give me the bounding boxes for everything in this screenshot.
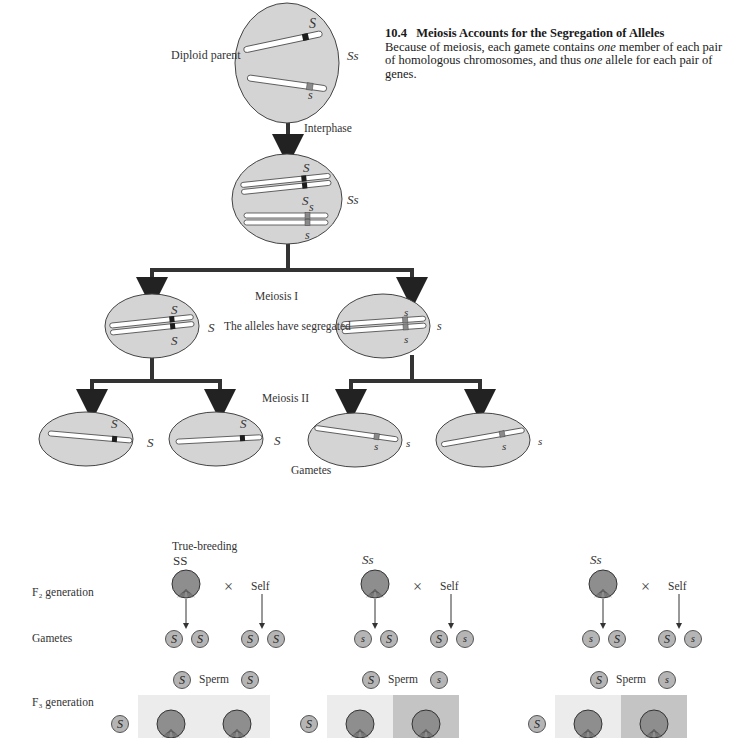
- allele-label: s: [305, 228, 310, 243]
- meiosis-diagram: [0, 0, 736, 738]
- allele-label: S: [303, 160, 310, 176]
- allele-label: s: [404, 306, 408, 318]
- gamete-circle: S: [241, 630, 259, 648]
- parent-seed: [589, 570, 617, 598]
- arrow-meiosis2-3: [351, 355, 412, 405]
- parent-genotype: Ss: [347, 48, 359, 64]
- arrow-meiosis2-2: [152, 381, 220, 405]
- true-breeding-label: True-breeding: [172, 540, 237, 552]
- arrow-meiosis1-right: [288, 270, 412, 293]
- parent-seed: [172, 570, 200, 598]
- allele-label: S: [171, 333, 178, 349]
- parent-genotype-label: SS: [173, 553, 187, 569]
- sperm-label: Sperm: [388, 673, 418, 685]
- gamete-cell-3: [308, 413, 402, 467]
- offspring-seed: [412, 710, 440, 738]
- allele-label: S: [208, 320, 215, 336]
- gamete-circle: S: [267, 630, 285, 648]
- meiosis1-left-cell: [105, 294, 199, 358]
- cross-symbol: ×: [641, 578, 650, 596]
- allele-label: S: [240, 416, 247, 432]
- interphase-genotype: Ss: [347, 192, 359, 208]
- gamete-cell-2: [169, 412, 263, 466]
- gamete-circle: S: [528, 715, 546, 733]
- allele-label: s: [406, 437, 410, 449]
- sperm-label: Sperm: [199, 673, 229, 685]
- gamete-circle: S: [430, 630, 448, 648]
- allele-label: S: [171, 302, 178, 318]
- segregated-label: The alleles have segregated: [224, 320, 351, 332]
- allele-label: s: [309, 200, 314, 215]
- gamete-circle: s: [430, 671, 448, 689]
- diploid-parent-cell: [235, 3, 339, 123]
- arrow-meiosis2-1: [92, 355, 152, 405]
- gamete-circle: s: [456, 630, 474, 648]
- allele-label: s: [374, 440, 378, 452]
- offspring-seed: [640, 710, 668, 738]
- gametes-row-label: Gametes: [32, 632, 72, 644]
- offspring-seed: [574, 710, 602, 738]
- offspring-seed: [346, 710, 374, 738]
- gamete-circle: s: [582, 630, 600, 648]
- gamete-circle: S: [300, 715, 318, 733]
- self-label: Self: [668, 580, 687, 592]
- interphase-label: Interphase: [304, 122, 352, 134]
- gamete-circle: S: [241, 671, 259, 689]
- gamete-circle: s: [658, 671, 676, 689]
- self-label: Self: [440, 580, 459, 592]
- offspring-seed: [157, 710, 185, 738]
- allele-label: s: [308, 88, 313, 103]
- gametes-label: Gametes: [291, 464, 331, 476]
- parent-genotype-label: Ss: [362, 552, 374, 568]
- gamete-circle: S: [191, 630, 209, 648]
- gamete-cell-1: [39, 412, 133, 466]
- allele-label: s: [437, 319, 442, 334]
- interphase-cell: [232, 154, 342, 244]
- allele-label: S: [274, 433, 281, 449]
- f3-generation-label: F₃ generation: [32, 696, 94, 708]
- gamete-circle: S: [590, 671, 608, 689]
- gamete-circle: S: [658, 630, 676, 648]
- diploid-parent-label: Diploid parent: [171, 48, 241, 63]
- arrow-meiosis2-4: [412, 381, 480, 405]
- gamete-cell-4: [436, 413, 530, 467]
- allele-label: s: [404, 333, 408, 345]
- gamete-circle: S: [608, 630, 626, 648]
- allele-label: s: [538, 435, 542, 447]
- gamete-circle: s: [354, 630, 372, 648]
- allele-label: S: [111, 416, 118, 432]
- gamete-circle: S: [362, 671, 380, 689]
- f2-generation-label: F₂ generation: [32, 586, 94, 598]
- gamete-circle: S: [173, 671, 191, 689]
- gamete-circle: s: [684, 630, 702, 648]
- meiosis2-label: Meiosis II: [262, 392, 309, 404]
- arrow-meiosis1-left: [152, 243, 288, 293]
- meiosis1-label: Meiosis I: [255, 290, 298, 302]
- cross-symbol: ×: [224, 578, 233, 596]
- gamete-circle: S: [111, 715, 129, 733]
- parent-seed: [361, 570, 389, 598]
- gamete-circle: S: [165, 630, 183, 648]
- allele-label: S: [302, 193, 309, 209]
- sperm-label: Sperm: [616, 673, 646, 685]
- allele-label: s: [502, 440, 506, 452]
- allele-label: S: [309, 16, 316, 32]
- gamete-circle: S: [380, 630, 398, 648]
- cross-symbol: ×: [413, 578, 422, 596]
- parent-genotype-label: Ss: [590, 552, 602, 568]
- self-label: Self: [251, 580, 270, 592]
- allele-label: S: [147, 435, 154, 451]
- offspring-seed: [223, 710, 251, 738]
